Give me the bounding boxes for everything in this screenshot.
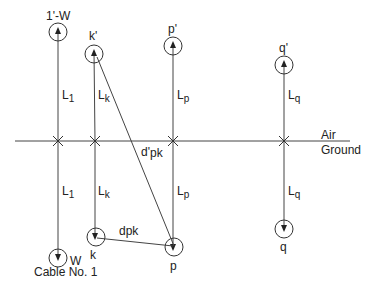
diagram-canvas — [0, 0, 376, 293]
length-label-l1-ground: L1 — [62, 185, 74, 200]
arrow-up-icon — [170, 41, 176, 48]
label-image-k: k' — [89, 30, 97, 42]
arrow-down-icon — [281, 225, 287, 232]
label-real-k: k — [90, 249, 96, 261]
real-distance-line-dpk — [97, 238, 173, 246]
label-image-w: 1'-W — [46, 10, 70, 22]
arrow-down-icon — [55, 254, 61, 261]
length-label-lp-air: Lp — [177, 89, 189, 104]
length-label-lq-ground: Lq — [288, 185, 300, 200]
length-label-lq-air: Lq — [288, 89, 300, 104]
air-label: Air — [321, 129, 336, 141]
conductor-w — [49, 23, 67, 267]
label-real-distance-dpk: dpk — [119, 225, 138, 237]
conductor-p — [164, 37, 183, 256]
cable-caption: Cable No. 1 — [34, 266, 97, 278]
arrow-down-icon — [92, 233, 98, 240]
length-label-lk-ground: Lk — [98, 185, 110, 200]
conductor-q — [275, 56, 293, 238]
image-line-k — [94, 52, 95, 141]
ground-label: Ground — [321, 144, 361, 156]
conductor-k — [85, 45, 105, 246]
label-image-p: p' — [168, 23, 177, 35]
arrow-up-icon — [91, 49, 97, 56]
label-image-distance-dprime-pk: d'pk — [141, 146, 163, 159]
arrow-down-icon — [170, 244, 176, 251]
label-image-q: q' — [279, 42, 288, 54]
label-real-p: p — [170, 260, 177, 272]
length-label-lp-ground: Lp — [177, 185, 189, 200]
length-label-lk-air: Lk — [98, 89, 110, 104]
length-label-l1-air: L1 — [62, 89, 74, 104]
label-real-q: q — [280, 241, 287, 253]
arrow-up-icon — [281, 60, 287, 67]
arrow-up-icon — [55, 27, 61, 34]
